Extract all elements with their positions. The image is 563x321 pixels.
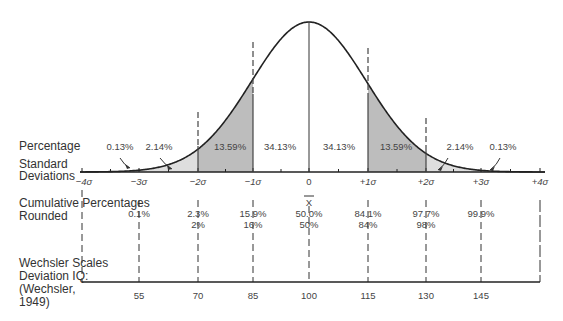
iq-tick: 85 — [248, 290, 259, 301]
sigma-tick: +2σ — [418, 176, 435, 187]
sigma-tick: −2σ — [190, 176, 207, 187]
row-label-percentage: Percentage — [19, 140, 80, 152]
mean-symbol: X — [306, 197, 312, 208]
sigma-tick: +4σ — [532, 176, 549, 187]
row-label-year: 1949) — [19, 296, 50, 308]
sigma-tick: +1σ — [360, 176, 377, 187]
segment-pct: 34.13% — [264, 141, 296, 152]
cumulative-pct: 84.1% — [355, 208, 382, 219]
sigma-tick: +3σ — [473, 176, 490, 187]
iq-tick: 145 — [473, 290, 489, 301]
segment-pct: 2.14% — [447, 141, 474, 152]
cumulative-pct: 0.1% — [128, 208, 150, 219]
iq-tick: 115 — [360, 290, 375, 301]
segment-pct: 2.14% — [146, 141, 173, 152]
row-label-rounded: Rounded — [19, 210, 68, 222]
cumulative-rounded: 98% — [416, 219, 435, 230]
cumulative-pct: 2.3% — [187, 208, 209, 219]
sigma-tick: −1σ — [245, 176, 262, 187]
sigma-tick: 0 — [306, 176, 311, 187]
cumulative-rounded: 16% — [243, 219, 262, 230]
row-label-deviation-iq: Deviation IQ: — [19, 270, 88, 282]
segment-pct: 13.59% — [214, 141, 246, 152]
sigma-tick: −4σ — [76, 176, 93, 187]
cumulative-rounded: 50% — [299, 219, 318, 230]
cumulative-rounded: 84% — [358, 219, 377, 230]
segment-pct: 0.13% — [107, 141, 134, 152]
cumulative-rounded: 2% — [191, 219, 205, 230]
segment-pct: 0.13% — [490, 141, 517, 152]
iq-tick: 130 — [418, 290, 434, 301]
iq-tick: 70 — [193, 290, 204, 301]
segment-pct: 13.59% — [380, 141, 412, 152]
cumulative-pct: 99.9% — [468, 208, 495, 219]
iq-tick: 55 — [134, 290, 145, 301]
cumulative-pct: 50.0% — [296, 208, 323, 219]
row-label-deviations: Deviations — [19, 170, 75, 182]
sigma-tick: −3σ — [131, 176, 148, 187]
iq-tick: 100 — [301, 290, 317, 301]
cumulative-pct: 15.9% — [240, 208, 267, 219]
segment-pct: 34.13% — [323, 141, 355, 152]
row-label-wechsler: Wechsler Scales — [19, 257, 108, 269]
cumulative-pct: 97.7% — [413, 208, 440, 219]
row-label-wechsler-cite: (Wechsler, — [19, 283, 75, 295]
